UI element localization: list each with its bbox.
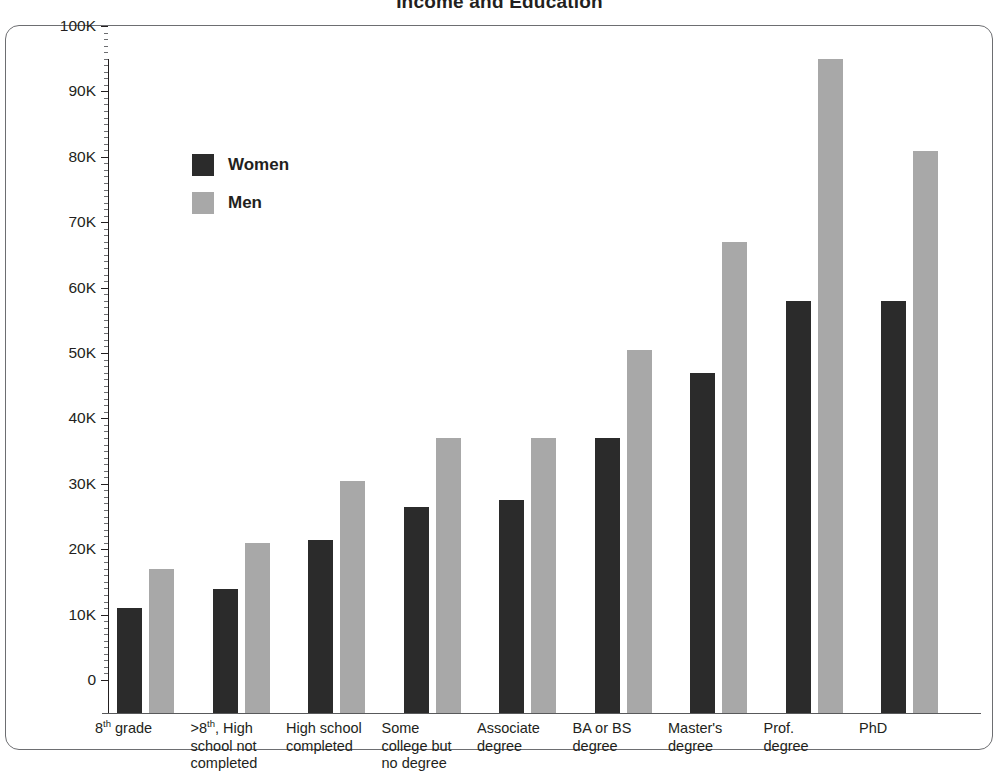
bar-men[interactable] — [245, 543, 270, 713]
y-axis-tick-label: 30K — [68, 475, 96, 493]
y-axis-minor-tick — [104, 523, 108, 524]
y-axis-minor-tick — [104, 104, 108, 105]
y-axis-minor-tick — [104, 628, 108, 629]
y-axis-minor-tick — [104, 340, 108, 341]
bar-women[interactable] — [499, 500, 524, 713]
y-axis-minor-tick — [104, 445, 108, 446]
bar-women[interactable] — [595, 438, 620, 713]
y-axis-minor-tick — [104, 216, 108, 217]
y-axis-minor-tick — [104, 641, 108, 642]
bar-women[interactable] — [881, 301, 906, 713]
x-axis-tick-label: Prof.degree — [764, 720, 860, 755]
y-axis-minor-tick — [104, 497, 108, 498]
y-axis-minor-tick — [104, 386, 108, 387]
y-axis-minor-tick — [104, 517, 108, 518]
y-axis-minor-tick — [104, 379, 108, 380]
y-axis-major-tick — [101, 353, 108, 354]
bar-men[interactable] — [149, 569, 174, 713]
x-axis-tick-label: PhD — [859, 720, 955, 738]
y-axis-tick-label: 10K — [68, 606, 96, 624]
y-axis-tick-label: 80K — [68, 148, 96, 166]
y-axis-minor-tick — [104, 673, 108, 674]
bar-men[interactable] — [818, 59, 843, 713]
y-axis-minor-tick — [104, 451, 108, 452]
y-axis-minor-tick — [104, 399, 108, 400]
y-axis-minor-tick — [104, 281, 108, 282]
y-axis-minor-tick — [104, 196, 108, 197]
bar-women[interactable] — [308, 540, 333, 713]
y-axis-minor-tick — [104, 438, 108, 439]
y-axis-minor-tick — [104, 314, 108, 315]
y-axis-minor-tick — [104, 320, 108, 321]
y-axis-minor-tick — [104, 588, 108, 589]
y-axis-minor-tick — [104, 471, 108, 472]
y-axis-minor-tick — [104, 477, 108, 478]
y-axis-minor-tick — [104, 242, 108, 243]
y-axis-minor-tick — [104, 137, 108, 138]
bar-women[interactable] — [786, 301, 811, 713]
legend-item-men[interactable]: Men — [192, 192, 372, 214]
y-axis-minor-tick — [104, 255, 108, 256]
y-axis-major-tick — [101, 418, 108, 419]
y-axis-minor-tick — [104, 150, 108, 151]
legend-swatch-icon — [192, 154, 214, 176]
x-axis-tick-label: Somecollege butno degree — [382, 720, 478, 773]
legend-item-women[interactable]: Women — [192, 154, 372, 176]
x-axis-tick-label: >8th, Highschool notcompleted — [191, 720, 287, 773]
y-axis-minor-tick — [104, 582, 108, 583]
y-axis-minor-tick — [104, 248, 108, 249]
y-axis-minor-tick — [104, 72, 108, 73]
y-axis-minor-tick — [104, 667, 108, 668]
y-axis-minor-tick — [104, 647, 108, 648]
y-axis-minor-tick — [104, 556, 108, 557]
bar-men[interactable] — [913, 151, 938, 713]
x-axis-tick-label: Associatedegree — [477, 720, 573, 755]
y-axis-minor-tick — [104, 78, 108, 79]
y-axis-minor-tick — [104, 464, 108, 465]
x-axis-tick-label: 8th grade — [95, 720, 191, 738]
y-axis-minor-tick — [104, 569, 108, 570]
y-axis-minor-tick — [104, 530, 108, 531]
y-axis: 010K20K30K40K50K60K70K80K90K100K — [6, 26, 108, 681]
y-axis-tick-label: 60K — [68, 279, 96, 297]
y-axis-minor-tick — [104, 360, 108, 361]
bar-men[interactable] — [531, 438, 556, 713]
y-axis-major-tick — [101, 26, 108, 27]
y-axis-tick-label: 20K — [68, 540, 96, 558]
y-axis-tick-label: 70K — [68, 213, 96, 231]
y-axis-minor-tick — [104, 392, 108, 393]
bar-women[interactable] — [404, 507, 429, 713]
y-axis-minor-tick — [104, 602, 108, 603]
y-axis-minor-tick — [104, 144, 108, 145]
y-axis-minor-tick — [104, 65, 108, 66]
y-axis-major-tick — [101, 288, 108, 289]
y-axis-minor-tick — [104, 621, 108, 622]
bar-men[interactable] — [722, 242, 747, 713]
y-axis-major-tick — [101, 484, 108, 485]
bar-women[interactable] — [117, 608, 142, 713]
y-axis-minor-tick — [104, 190, 108, 191]
y-axis-minor-tick — [104, 301, 108, 302]
legend-label: Men — [228, 193, 262, 213]
y-axis-minor-tick — [104, 46, 108, 47]
bar-men[interactable] — [340, 481, 365, 713]
bar-men[interactable] — [627, 350, 652, 713]
y-axis-minor-tick — [104, 261, 108, 262]
y-axis-minor-tick — [104, 203, 108, 204]
y-axis-minor-tick — [104, 425, 108, 426]
y-axis-minor-tick — [104, 333, 108, 334]
y-axis-minor-tick — [104, 124, 108, 125]
y-axis-minor-tick — [104, 235, 108, 236]
y-axis-minor-tick — [104, 275, 108, 276]
y-axis-minor-tick — [104, 654, 108, 655]
y-axis-major-tick — [101, 549, 108, 550]
bar-women[interactable] — [690, 373, 715, 713]
y-axis-major-tick — [101, 680, 108, 681]
page-title: Income and Education — [0, 0, 999, 13]
y-axis-minor-tick — [104, 595, 108, 596]
bar-men[interactable] — [436, 438, 461, 713]
bar-women[interactable] — [213, 589, 238, 713]
y-axis-tick-label: 50K — [68, 344, 96, 362]
y-axis-minor-tick — [104, 543, 108, 544]
y-axis-minor-tick — [104, 111, 108, 112]
